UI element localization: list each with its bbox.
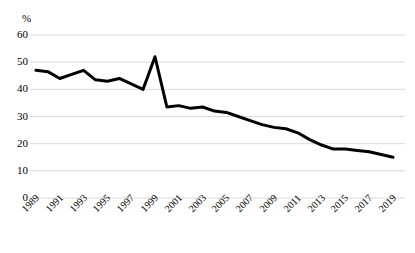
y-tick-label: 50 bbox=[2, 56, 28, 67]
line-chart: % 6050403020100 198919911993199519971999… bbox=[0, 0, 415, 253]
chart-plot-area bbox=[0, 0, 415, 253]
y-tick-label: 10 bbox=[2, 165, 28, 176]
y-tick-label: 60 bbox=[2, 29, 28, 40]
gridlines bbox=[30, 35, 405, 198]
y-axis-unit-label: % bbox=[22, 12, 31, 24]
y-tick-label: 20 bbox=[2, 138, 28, 149]
data-series-line bbox=[36, 57, 393, 158]
y-tick-label: 40 bbox=[2, 83, 28, 94]
y-tick-label: 30 bbox=[2, 111, 28, 122]
